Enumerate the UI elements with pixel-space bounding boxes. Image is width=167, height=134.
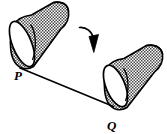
figure-container: P Q [0, 0, 167, 134]
label-p: P [14, 68, 23, 83]
label-q: Q [107, 118, 117, 133]
left-cylinder [4, 2, 68, 70]
segment-p-to-q [20, 68, 114, 107]
cylinder-diagram: P Q [0, 0, 167, 134]
motion-arrow-head [89, 35, 99, 53]
right-cylinder [98, 45, 162, 110]
curved-motion-arrow [80, 27, 99, 52]
